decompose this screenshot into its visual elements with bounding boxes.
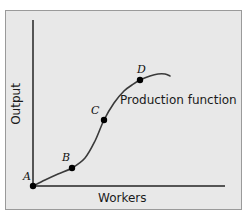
production-function-annotation: Production function: [120, 93, 237, 107]
figure-frame: [5, 10, 242, 210]
point-label-b: B: [62, 151, 70, 164]
y-axis-label: Output: [9, 74, 23, 134]
point-label-c: C: [91, 104, 99, 117]
point-label-a: A: [23, 170, 31, 183]
x-axis-label: Workers: [98, 191, 147, 205]
point-label-d: D: [137, 63, 146, 76]
production-function-figure: Output Workers Production function ABCD: [0, 0, 249, 220]
